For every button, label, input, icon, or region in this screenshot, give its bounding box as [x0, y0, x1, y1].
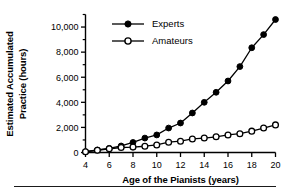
- data-point-amateurs: [249, 128, 255, 134]
- data-point-amateurs: [273, 122, 279, 128]
- y-tick-label: 4,000: [56, 98, 79, 108]
- data-point-amateurs: [261, 125, 267, 131]
- data-point-amateurs: [201, 135, 207, 141]
- data-point-amateurs: [166, 139, 172, 145]
- data-point-amateurs: [142, 143, 148, 149]
- data-point-experts: [154, 132, 160, 138]
- data-point-experts: [166, 125, 172, 131]
- data-point-experts: [237, 64, 243, 70]
- x-tick-label: 4: [83, 160, 88, 170]
- x-tick-label: 14: [199, 160, 209, 170]
- data-point-experts: [273, 17, 279, 23]
- x-tick-label: 16: [223, 160, 233, 170]
- x-axis-title: Age of the Pianists (years): [122, 174, 239, 185]
- legend-marker-experts: [125, 21, 131, 27]
- data-point-experts: [213, 89, 219, 95]
- y-axis-title-line1: Estimated Accumulated: [4, 31, 15, 137]
- data-point-amateurs: [83, 149, 89, 155]
- figure-bottom-rule: [14, 186, 276, 187]
- legend-label-amateurs: Amateurs: [152, 35, 193, 46]
- data-point-amateurs: [225, 132, 231, 138]
- y-tick-label: 2,000: [56, 123, 79, 133]
- y-tick-label: 0: [73, 148, 78, 158]
- x-tick-label: 20: [270, 160, 280, 170]
- x-tick-label: 8: [130, 160, 135, 170]
- legend-marker-amateurs: [125, 38, 131, 44]
- data-point-amateurs: [106, 146, 112, 152]
- data-point-amateurs: [130, 144, 136, 150]
- data-point-amateurs: [213, 134, 219, 140]
- data-point-experts: [261, 32, 267, 38]
- data-point-amateurs: [94, 147, 100, 153]
- legend-label-experts: Experts: [152, 18, 184, 29]
- data-point-experts: [189, 110, 195, 116]
- y-tick-label: 6,000: [56, 73, 79, 83]
- x-tick-label: 10: [152, 160, 162, 170]
- data-point-amateurs: [178, 138, 184, 144]
- data-point-amateurs: [118, 145, 124, 151]
- y-tick-label: 8,000: [56, 47, 79, 57]
- data-point-experts: [201, 99, 207, 105]
- data-point-amateurs: [154, 142, 160, 148]
- y-axis-title-line2: Practice (hours): [17, 49, 28, 120]
- x-tick-label: 6: [107, 160, 112, 170]
- practice-line-chart: 02,0004,0006,0008,00010,0004681012141618…: [0, 0, 286, 191]
- y-tick-label: 10,000: [51, 22, 79, 32]
- chart-figure: 02,0004,0006,0008,00010,0004681012141618…: [0, 0, 286, 191]
- x-tick-label: 18: [247, 160, 257, 170]
- x-tick-label: 12: [175, 160, 185, 170]
- data-point-amateurs: [237, 131, 243, 137]
- data-point-experts: [225, 78, 231, 84]
- data-point-experts: [249, 45, 255, 51]
- data-point-experts: [142, 135, 148, 141]
- data-point-amateurs: [189, 136, 195, 142]
- data-point-experts: [178, 120, 184, 126]
